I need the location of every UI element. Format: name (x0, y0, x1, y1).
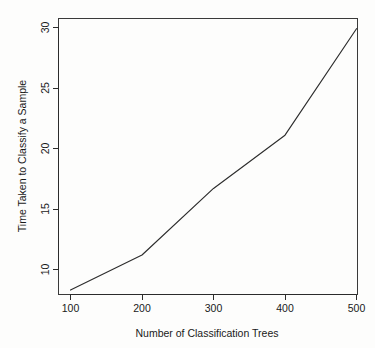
chart-figure: 30 25 20 15 10 100 200 300 400 500 Numbe… (0, 0, 375, 348)
x-tick-label-300: 300 (205, 302, 223, 314)
chart-background (0, 0, 375, 348)
y-tick-label-30: 30 (39, 22, 51, 34)
y-tick-label-15: 15 (39, 203, 51, 215)
line-chart: 30 25 20 15 10 100 200 300 400 500 Numbe… (0, 0, 375, 348)
y-axis-title: Time Taken to Classify a Sample (16, 80, 28, 232)
x-axis-title: Number of Classification Trees (136, 327, 279, 339)
y-tick-label-25: 25 (39, 82, 51, 94)
y-tick-label-20: 20 (39, 143, 51, 155)
x-tick-label-100: 100 (62, 302, 80, 314)
y-tick-label-10: 10 (39, 264, 51, 276)
x-tick-label-500: 500 (348, 302, 366, 314)
x-tick-label-400: 400 (276, 302, 294, 314)
x-tick-label-200: 200 (133, 302, 151, 314)
